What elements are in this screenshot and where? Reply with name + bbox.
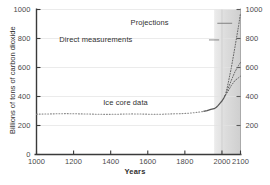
y-tick-label-left-1000: 1000 bbox=[0, 6, 31, 14]
x-tick-label-1000: 1000 bbox=[28, 158, 45, 166]
y-tick-label-right-200: 200 bbox=[246, 122, 259, 130]
plot-background bbox=[37, 10, 241, 155]
y-tick-label-left-200: 200 bbox=[0, 122, 31, 130]
x-tick-label-1200: 1200 bbox=[65, 158, 82, 166]
y-tick-label-right-1000: 1000 bbox=[246, 6, 263, 14]
x-tick-label-1800: 1800 bbox=[176, 158, 193, 166]
y-tick-label-right-400: 400 bbox=[246, 93, 259, 101]
y-tick-label-left-0: 0 bbox=[0, 151, 31, 159]
x-tick-label-1400: 1400 bbox=[102, 158, 119, 166]
y-tick-label-left-400: 400 bbox=[0, 93, 31, 101]
projection-shaded-region bbox=[214, 10, 240, 155]
y-tick-label-left-800: 800 bbox=[0, 35, 31, 43]
annotation-direct-measurements: Direct measurements bbox=[59, 36, 132, 44]
y-axis-title: Billions of tons of carbon dioxide bbox=[9, 26, 17, 134]
x-tick-label-1600: 1600 bbox=[139, 158, 156, 166]
annotation-projections: Projections bbox=[131, 19, 169, 27]
x-axis-title: Years bbox=[0, 168, 270, 176]
x-tick-label-2100: 2100 bbox=[232, 158, 249, 166]
y-tick-label-right-600: 600 bbox=[246, 64, 259, 72]
annotation-ice-core-data: Ice core data bbox=[103, 99, 148, 107]
y-tick-label-left-600: 600 bbox=[0, 64, 31, 72]
co2-emissions-chart: Billions of tons of carbon dioxide Years… bbox=[0, 0, 270, 185]
y-tick-label-right-800: 800 bbox=[246, 35, 259, 43]
x-tick-label-2000: 2000 bbox=[213, 158, 230, 166]
